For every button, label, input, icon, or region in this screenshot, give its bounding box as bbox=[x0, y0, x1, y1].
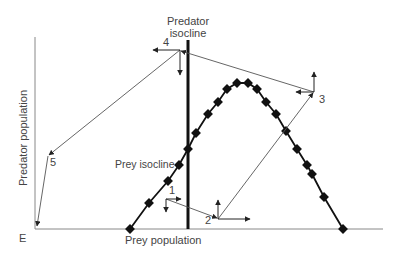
trajectory bbox=[37, 50, 314, 226]
prey-isocline-curve bbox=[125, 78, 348, 234]
trajectory-5-to-E bbox=[37, 156, 48, 226]
predator-isocline-label-line1: Predator bbox=[158, 15, 218, 27]
point-label-5: 5 bbox=[50, 156, 56, 168]
origin-label-E: E bbox=[19, 232, 26, 244]
point-label-2: 2 bbox=[205, 214, 211, 226]
predator-prey-diagram: Predator isocline Prey isocline Prey pop… bbox=[0, 0, 402, 254]
trajectory-2-to-3 bbox=[218, 93, 313, 219]
point-label-4: 4 bbox=[163, 36, 169, 48]
point-label-3: 3 bbox=[319, 93, 325, 105]
component-vectors bbox=[153, 50, 314, 219]
axes bbox=[35, 37, 383, 229]
prey-isocline-label: Prey isocline bbox=[115, 158, 175, 170]
y-axis-label: Predator population bbox=[17, 90, 29, 186]
point-label-1: 1 bbox=[169, 184, 175, 196]
trajectory-4-to-5 bbox=[49, 50, 180, 155]
prey-isocline-markers bbox=[125, 78, 348, 234]
x-axis-label: Prey population bbox=[125, 234, 201, 246]
